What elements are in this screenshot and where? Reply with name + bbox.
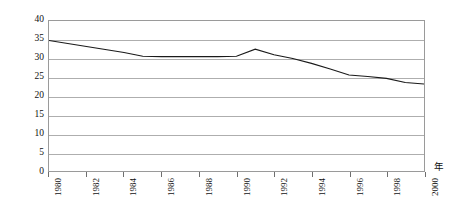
y-axis-tick-labels: 0510152025303540 — [20, 0, 44, 221]
y-axis-tick-label: 20 — [22, 91, 44, 101]
y-axis-tick-label: 10 — [22, 129, 44, 139]
x-axis-tick — [48, 172, 49, 177]
x-axis-tick — [312, 172, 313, 177]
series-line — [49, 21, 424, 171]
plot-area — [48, 20, 425, 172]
x-axis-tick — [350, 172, 351, 177]
x-axis-tick — [86, 172, 87, 177]
y-axis-tick-label: 5 — [22, 148, 44, 158]
x-axis-tick-label: 1992 — [279, 178, 290, 218]
x-axis-unit-label: 年 — [434, 162, 444, 173]
x-axis-tick — [274, 172, 275, 177]
x-axis-tick-label: 1982 — [91, 178, 102, 218]
x-axis-tick-label: 1998 — [392, 178, 403, 218]
x-axis-tick-label: 1986 — [166, 178, 177, 218]
y-axis-tick-label: 25 — [22, 72, 44, 82]
x-axis-tick-label: 2000 — [430, 178, 441, 218]
series-polyline — [49, 41, 424, 85]
x-axis-tick — [123, 172, 124, 177]
x-axis-tick-label: 1988 — [204, 178, 215, 218]
x-axis-tick — [199, 172, 200, 177]
x-axis-tick-labels: 1980198219841986198819901992199419961998… — [48, 178, 425, 218]
y-axis-tick-label: 40 — [22, 15, 44, 25]
y-axis-tick-label: 35 — [22, 34, 44, 44]
x-axis-tick — [425, 172, 426, 177]
x-axis-tick-label: 1994 — [317, 178, 328, 218]
x-axis-tick-label: 1996 — [355, 178, 366, 218]
x-axis-tick-label: 1980 — [53, 178, 64, 218]
y-axis-tick-label: 30 — [22, 53, 44, 63]
x-axis-tick — [237, 172, 238, 177]
y-axis-tick-label: 15 — [22, 110, 44, 120]
x-axis-tick-label: 1984 — [128, 178, 139, 218]
x-axis-tick — [387, 172, 388, 177]
line-chart: 致死數/非致命傷害數(%) 0510152025303540 198019821… — [0, 0, 462, 221]
x-axis-tick-label: 1990 — [242, 178, 253, 218]
y-axis-tick-label: 0 — [22, 167, 44, 177]
x-axis-tick — [161, 172, 162, 177]
